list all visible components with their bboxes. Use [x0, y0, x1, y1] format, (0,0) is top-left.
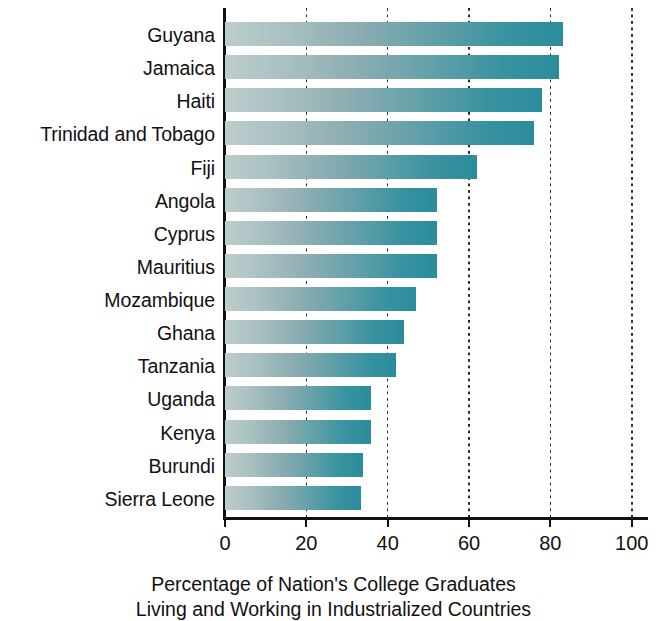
category-label: Angola — [0, 189, 215, 213]
bar — [225, 453, 363, 477]
bar — [225, 55, 559, 79]
category-label: Trinidad and Tobago — [0, 122, 215, 146]
category-label: Cyprus — [0, 222, 215, 246]
category-axis-labels: GuyanaJamaicaHaitiTrinidad and TobagoFij… — [0, 8, 215, 508]
category-label: Sierra Leone — [0, 487, 215, 511]
bar — [225, 88, 542, 112]
plot-area: 020406080100 — [225, 8, 648, 517]
x-tick-label: 80 — [539, 531, 561, 555]
bar — [225, 486, 361, 510]
bar — [225, 386, 371, 410]
category-label: Mauritius — [0, 255, 215, 279]
category-label: Fiji — [0, 156, 215, 180]
x-axis-caption-line: Percentage of Nation's College Graduates — [0, 572, 667, 597]
x-axis-caption: Percentage of Nation's College Graduates… — [0, 572, 667, 621]
category-label: Guyana — [0, 23, 215, 47]
tick-mark — [549, 517, 551, 527]
bar — [225, 121, 534, 145]
tick-mark — [305, 517, 307, 527]
bar — [225, 320, 404, 344]
bar — [225, 287, 416, 311]
category-label: Ghana — [0, 321, 215, 345]
bar — [225, 353, 396, 377]
x-tick-label: 60 — [458, 531, 480, 555]
x-tick-label: 0 — [219, 531, 230, 555]
bar — [225, 22, 563, 46]
bar — [225, 420, 371, 444]
category-label: Haiti — [0, 89, 215, 113]
category-label: Tanzania — [0, 354, 215, 378]
tick-mark — [387, 517, 389, 527]
tick-mark — [468, 517, 470, 527]
x-axis-line — [223, 517, 648, 520]
bar — [225, 221, 437, 245]
bar — [225, 254, 437, 278]
gridline — [550, 8, 552, 517]
tick-mark — [631, 517, 633, 527]
x-tick-label: 20 — [295, 531, 317, 555]
bar — [225, 155, 477, 179]
x-tick-label: 100 — [615, 531, 648, 555]
category-label: Burundi — [0, 454, 215, 478]
x-tick-label: 40 — [377, 531, 399, 555]
bar — [225, 188, 437, 212]
category-label: Jamaica — [0, 56, 215, 80]
category-label: Mozambique — [0, 288, 215, 312]
bar-chart: GuyanaJamaicaHaitiTrinidad and TobagoFij… — [0, 0, 667, 621]
category-label: Uganda — [0, 387, 215, 411]
x-axis-caption-line: Living and Working in Industrialized Cou… — [0, 597, 667, 621]
gridline — [631, 8, 633, 517]
tick-mark — [224, 517, 226, 527]
gridline — [468, 8, 470, 517]
category-label: Kenya — [0, 421, 215, 445]
